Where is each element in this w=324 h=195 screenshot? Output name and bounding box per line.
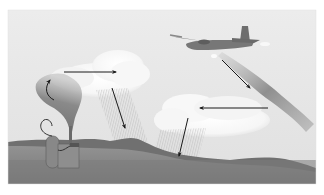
aircraft-engine [198,39,210,44]
generator-stack [69,126,72,145]
aircraft-nozzle-glow [260,42,270,46]
generator-box-lid [70,143,79,147]
generator-tank [46,136,59,168]
aircraft-release-glow [211,54,217,58]
generator-box [58,144,79,168]
cloud-seeding-illustration [0,0,324,195]
